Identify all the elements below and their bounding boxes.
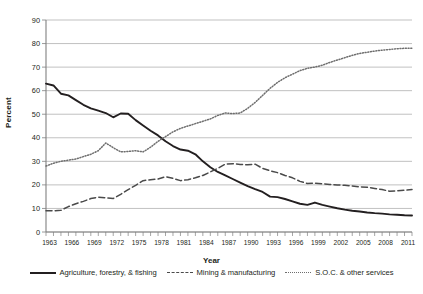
legend-label-services: S.O.C. & other services (315, 268, 393, 277)
legend-item-agriculture: Agriculture, forestry, & fishing (30, 268, 157, 277)
x-tick-label: 1993 (266, 239, 281, 246)
y-tick-label: 20 (32, 180, 40, 189)
x-tick-label: 2011 (401, 239, 416, 246)
x-tick-label: 1984 (199, 239, 214, 246)
y-tick-label: 30 (32, 157, 40, 166)
y-tick-label: 60 (32, 86, 40, 95)
line-chart-plot: 0102030405060708090196319661969197219751… (0, 0, 423, 294)
x-axis-label: Year (0, 256, 423, 265)
x-tick-label: 1963 (42, 239, 57, 246)
x-tick-label: 2005 (356, 239, 371, 246)
x-tick-label: 1966 (65, 239, 80, 246)
legend-label-agriculture: Agriculture, forestry, & fishing (60, 268, 157, 277)
legend-label-mining: Mining & manufacturing (197, 268, 276, 277)
y-tick-label: 10 (32, 204, 40, 213)
series-line-agriculture (46, 84, 412, 216)
y-tick-label: 80 (32, 39, 40, 48)
x-tick-label: 1981 (177, 239, 192, 246)
y-axis-label: Percent (4, 91, 13, 135)
legend-item-mining: Mining & manufacturing (167, 268, 276, 277)
y-tick-label: 40 (32, 133, 40, 142)
y-tick-label: 70 (32, 63, 40, 72)
y-tick-label: 0 (36, 228, 40, 237)
y-tick-label: 50 (32, 110, 40, 119)
y-tick-label: 90 (32, 16, 40, 25)
series-line-services (46, 48, 412, 166)
chart-figure: 0102030405060708090196319661969197219751… (0, 0, 423, 294)
legend-item-services: S.O.C. & other services (285, 268, 393, 277)
legend-swatch-dashed-icon (167, 269, 193, 276)
x-tick-label: 1972 (109, 239, 124, 246)
series-line-mining (46, 164, 412, 211)
chart-legend: Agriculture, forestry, & fishing Mining … (0, 268, 423, 277)
x-tick-label: 1990 (244, 239, 259, 246)
x-tick-label: 1996 (289, 239, 304, 246)
x-tick-label: 1987 (221, 239, 236, 246)
x-tick-label: 1978 (154, 239, 169, 246)
x-tick-label: 1969 (87, 239, 102, 246)
x-tick-label: 2002 (333, 239, 348, 246)
x-tick-label: 1999 (311, 239, 326, 246)
x-tick-label: 1975 (132, 239, 147, 246)
x-tick-label: 2008 (378, 239, 393, 246)
legend-swatch-dotted-icon (285, 269, 311, 276)
legend-swatch-solid-icon (30, 269, 56, 276)
